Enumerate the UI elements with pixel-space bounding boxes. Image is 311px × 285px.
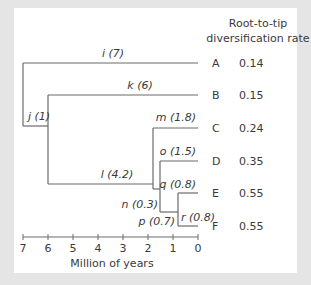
- tip-rate-A: 0.14: [239, 57, 264, 70]
- time-axis: [23, 234, 198, 240]
- tip-rate-B: 0.15: [239, 89, 264, 102]
- axis-tick-4: 4: [95, 242, 102, 255]
- label-branch-k: k (6): [127, 79, 152, 92]
- axis-tick-3: 3: [120, 242, 127, 255]
- tip-rate-E: 0.55: [239, 187, 264, 200]
- label-branch-l: l (4.2): [101, 168, 134, 181]
- axis-tick-5: 5: [70, 242, 77, 255]
- label-branch-n: n (0.3): [121, 198, 158, 211]
- label-branch-o: o (1.5): [160, 145, 196, 158]
- axis-tick-6: 6: [45, 242, 52, 255]
- label-branch-i: i (7): [102, 47, 124, 60]
- tip-rate-C: 0.24: [239, 122, 264, 135]
- axis-tick-1: 1: [170, 242, 177, 255]
- tip-rate-F: 0.55: [239, 220, 264, 233]
- axis-tick-7: 7: [20, 242, 27, 255]
- axis-tick-2: 2: [145, 242, 152, 255]
- tip-name-D: D: [212, 155, 220, 168]
- axis-title: Million of years: [70, 257, 154, 270]
- label-branch-p: p (0.7): [137, 215, 175, 228]
- label-branch-r: r (0.8): [181, 211, 215, 224]
- tip-name-C: C: [212, 122, 220, 135]
- tip-name-E: E: [212, 187, 219, 200]
- axis-tick-0: 0: [195, 242, 202, 255]
- tip-name-B: B: [212, 89, 220, 102]
- phylogenetic-tree: i (7) j (1) k (6) l (4.2) m (1.8) n (0.3…: [0, 0, 311, 285]
- label-branch-m: m (1.8): [156, 111, 196, 124]
- tip-rate-D: 0.35: [239, 155, 264, 168]
- label-branch-q: q (0.8): [159, 178, 196, 191]
- label-branch-j: j (1): [26, 110, 50, 123]
- tip-name-F: F: [212, 220, 218, 233]
- tip-name-A: A: [212, 57, 220, 70]
